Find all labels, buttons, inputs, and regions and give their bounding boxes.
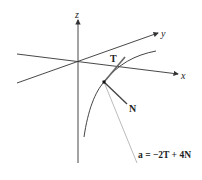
x-axis-label: x: [180, 70, 186, 81]
y-axis: [17, 33, 158, 83]
tangent-label: T: [110, 53, 117, 64]
normal-label: N: [129, 103, 137, 114]
z-axis-label: z: [74, 9, 79, 20]
acceleration-label: a = −2T + 4N: [138, 150, 191, 160]
acceleration-vector: [104, 82, 137, 163]
curve-point: [103, 81, 106, 84]
x-axis: [17, 54, 178, 74]
normal-vector: [104, 82, 127, 104]
diagram-canvas: z y x T N a = −2T + 4N: [0, 0, 202, 180]
y-axis-label: y: [160, 28, 166, 39]
